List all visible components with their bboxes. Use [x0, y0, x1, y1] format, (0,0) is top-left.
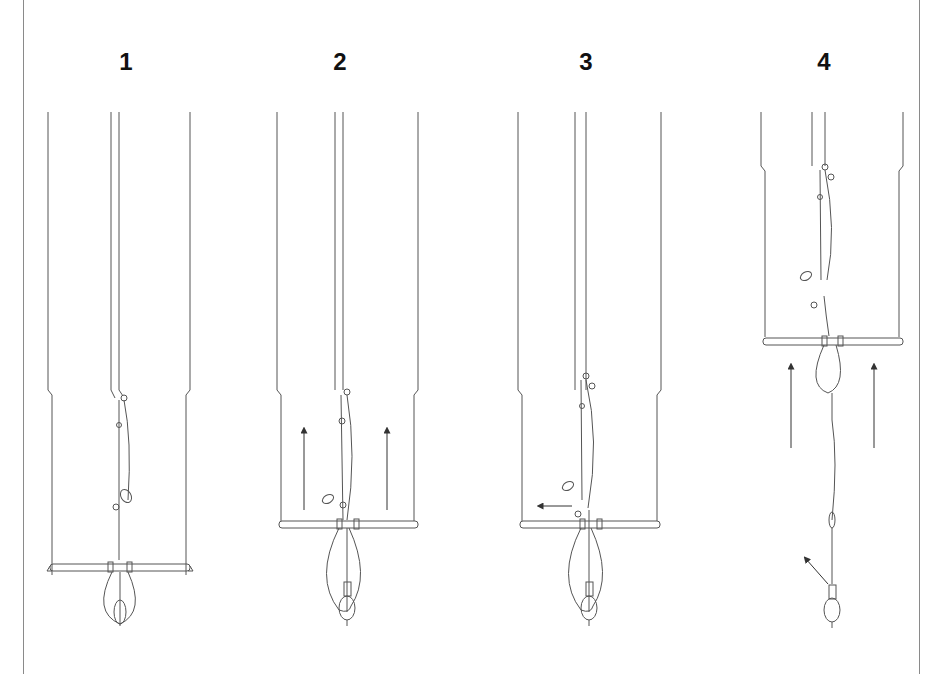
- step-4-illustration: [761, 112, 903, 628]
- bar-diagram: [0, 0, 932, 674]
- step-3-illustration: [518, 112, 661, 626]
- step-1-illustration: [47, 112, 193, 626]
- step-2-illustration: [277, 112, 418, 626]
- diagonal-arrow: [806, 559, 828, 584]
